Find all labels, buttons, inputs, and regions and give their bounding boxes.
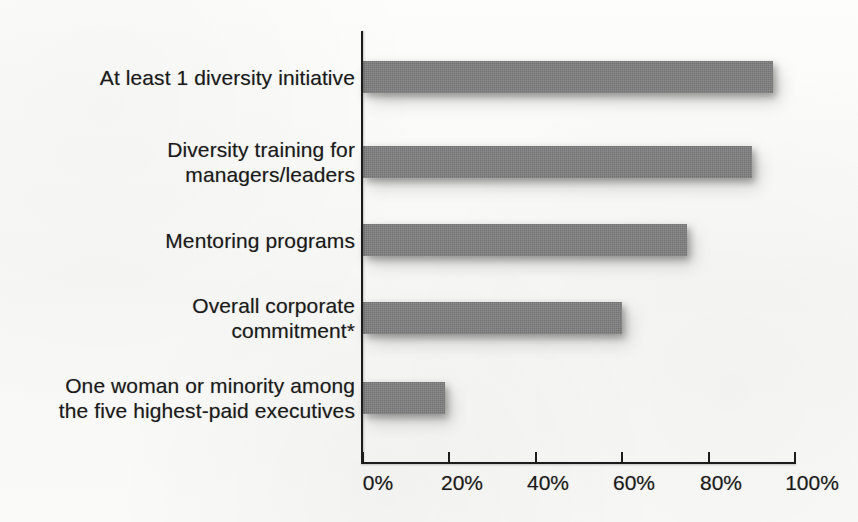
x-tick-40 — [535, 452, 537, 463]
bar-one-woman-or-minority-among-five-highest-paid — [363, 382, 445, 414]
x-tick-60 — [621, 452, 623, 463]
x-tick-80 — [708, 452, 710, 463]
category-label-4: Overall corporate commitment* — [192, 293, 355, 343]
x-tick-20 — [448, 452, 450, 463]
bar-overall-corporate-commitment — [363, 302, 622, 334]
x-tick-label-60: 60% — [613, 470, 655, 495]
bar-at-least-1-diversity-initiative — [363, 61, 773, 93]
x-tick-label-20: 20% — [441, 470, 483, 495]
bar-chart-plot-area: At least 1 diversity initiative Diversit… — [0, 0, 858, 522]
y-axis-line — [361, 31, 363, 463]
x-tick-label-0: 0% — [363, 470, 393, 495]
x-tick-label-40: 40% — [527, 470, 569, 495]
category-label-1: At least 1 diversity initiative — [100, 65, 355, 90]
chart-page: At least 1 diversity initiative Diversit… — [0, 0, 858, 522]
category-label-2: Diversity training for managers/leaders — [167, 137, 355, 187]
bar-mentoring-programs — [363, 224, 687, 256]
x-axis-line — [361, 462, 796, 464]
category-label-5: One woman or minority among the five hig… — [59, 373, 355, 423]
x-tick-100 — [794, 452, 796, 463]
x-tick-label-100: 100% — [785, 470, 839, 495]
x-tick-0 — [362, 452, 364, 463]
category-label-3: Mentoring programs — [165, 228, 355, 253]
bar-diversity-training-for-managers-leaders — [363, 146, 752, 178]
x-tick-label-80: 80% — [700, 470, 742, 495]
